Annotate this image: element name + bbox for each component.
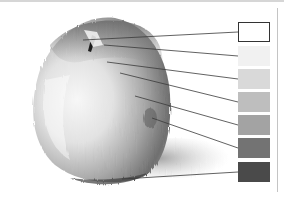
value-swatch-2 xyxy=(238,46,270,66)
value-swatch-1 xyxy=(238,22,270,42)
right-border-rule xyxy=(277,8,278,192)
value-swatch-3 xyxy=(238,69,270,89)
value-swatch-7 xyxy=(238,162,270,182)
value-swatch-6 xyxy=(238,138,270,158)
value-swatch-5 xyxy=(238,115,270,135)
value-swatch-4 xyxy=(238,92,270,112)
